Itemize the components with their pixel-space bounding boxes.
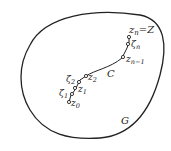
- label-zetan: ζn: [131, 39, 140, 51]
- label-zeta1: ζ1: [59, 88, 68, 100]
- point-zeta1: [70, 92, 73, 95]
- label-c: C: [107, 68, 115, 79]
- point-zetan: [126, 42, 129, 45]
- point-zn-1: [121, 55, 124, 58]
- label-zn: zn=Z: [128, 24, 155, 37]
- label-z0: z0: [70, 98, 80, 110]
- label-zn-1: zn−1: [125, 54, 145, 66]
- point-z1: [73, 86, 76, 89]
- label-g: G: [121, 115, 129, 126]
- diagram-canvas: zn=Z ζn zn−1 C z2 ζ2 z1 ζ1 z0 G: [0, 0, 171, 151]
- label-z1: z1: [77, 84, 87, 96]
- label-zeta2: ζ2: [66, 74, 75, 86]
- label-z2: z2: [87, 72, 97, 84]
